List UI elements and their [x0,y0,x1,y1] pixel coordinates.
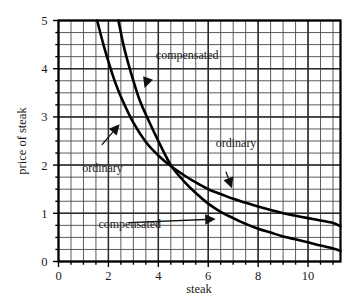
annotation-label-ordinary-2: ordinary [216,136,257,150]
y-tick-label: 0 [41,255,47,269]
x-tick-label: 6 [205,269,211,283]
x-tick-label: 0 [55,269,61,283]
y-tick-label: 4 [41,62,48,76]
demand-curve-figure: 0246810 012345 steak price of steak comp… [0,0,359,306]
y-tick-label: 5 [41,14,47,28]
y-tick-label: 3 [41,110,47,124]
y-tick-label: 2 [41,159,47,173]
x-tick-label: 10 [302,269,315,283]
y-axis-title: price of steak [15,107,29,175]
chart-svg: 0246810 012345 steak price of steak comp… [0,0,359,306]
annotation-label-compensated-0: compensated [156,48,219,62]
x-axis-title: steak [186,282,212,296]
annotation-label-compensated-3: compensated [98,217,161,231]
annotation-label-ordinary-1: ordinary [82,161,123,175]
y-tick-label: 1 [41,207,47,221]
x-tick-label: 8 [255,269,261,283]
x-tick-label: 4 [155,269,162,283]
x-tick-label: 2 [105,269,111,283]
